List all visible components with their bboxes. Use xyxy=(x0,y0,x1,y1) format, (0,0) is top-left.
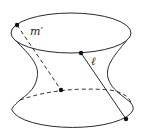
point-l-bottom xyxy=(124,117,128,121)
hyperboloid-diagram: m′ ℓ xyxy=(0,0,143,139)
ruling-l xyxy=(81,53,126,119)
bottom-rim-front xyxy=(12,110,133,127)
label-m-prime: m′ xyxy=(30,26,43,37)
hyperboloid-drawing xyxy=(0,0,143,139)
point-m-bottom xyxy=(59,88,63,92)
point-l-top xyxy=(79,51,83,55)
top-rim-ellipse xyxy=(11,13,131,53)
point-m-top xyxy=(15,23,19,27)
label-l: ℓ xyxy=(91,56,96,67)
bottom-rim-back xyxy=(20,89,131,103)
